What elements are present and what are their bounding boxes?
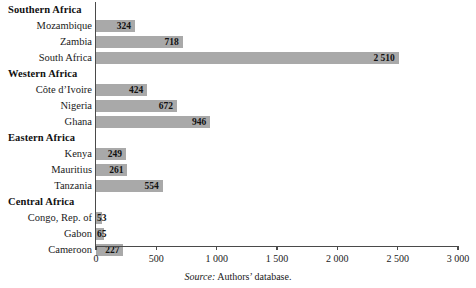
group-header-row: Eastern Africa bbox=[0, 130, 476, 146]
x-axis-tick-label: 500 bbox=[149, 252, 164, 266]
bar-row: Congo, Rep. of53 bbox=[0, 210, 476, 226]
bar-container: 65 bbox=[96, 228, 104, 240]
x-axis-tick-label: 2 500 bbox=[386, 252, 409, 266]
bar-value-label: 324 bbox=[92, 20, 135, 32]
bar-container: 261 bbox=[96, 164, 127, 176]
bar-value-label: 672 bbox=[92, 100, 177, 112]
category-label: Gabon bbox=[0, 226, 92, 242]
bar-row: Kenya249 bbox=[0, 146, 476, 162]
bar-container: 324 bbox=[96, 20, 135, 32]
category-label: Cameroon bbox=[0, 242, 92, 258]
bar-row: Côte d’Ivoire424 bbox=[0, 82, 476, 98]
bar-value-label: 718 bbox=[92, 36, 183, 48]
bar-chart-figure: Southern AfricaMozambique324Zambia718Sou… bbox=[0, 0, 476, 288]
category-label: South Africa bbox=[0, 50, 92, 66]
bar-value-label: 53 bbox=[96, 212, 107, 224]
bar-container: 672 bbox=[96, 100, 177, 112]
source-note: Source: Authors’ database. bbox=[0, 271, 476, 282]
x-axis-tick-label: 1 500 bbox=[266, 252, 289, 266]
bar-value-label: 424 bbox=[92, 84, 147, 96]
x-axis-tick-label: 0 bbox=[94, 252, 99, 266]
bar-value-label: 2 510 bbox=[92, 52, 399, 64]
bar-value-label: 249 bbox=[92, 148, 126, 160]
bar-row: Mozambique324 bbox=[0, 18, 476, 34]
bar-value-label: 261 bbox=[92, 164, 127, 176]
x-axis-tick-label: 2 000 bbox=[326, 252, 349, 266]
x-axis-tick-label: 3 000 bbox=[447, 252, 470, 266]
bar-container: 2 510 bbox=[96, 52, 399, 64]
x-axis-tick bbox=[276, 246, 277, 250]
bar-row: South Africa2 510 bbox=[0, 50, 476, 66]
group-header-row: Southern Africa bbox=[0, 2, 476, 18]
bar-value-label: 554 bbox=[92, 180, 163, 192]
x-axis-tick bbox=[156, 246, 157, 250]
category-label: Mauritius bbox=[0, 162, 92, 178]
bar-container: 554 bbox=[96, 180, 163, 192]
group-label: Western Africa bbox=[8, 66, 77, 82]
category-label: Tanzania bbox=[0, 178, 92, 194]
bar-value-label: 946 bbox=[92, 116, 210, 128]
category-label: Kenya bbox=[0, 146, 92, 162]
category-label: Congo, Rep. of bbox=[0, 210, 92, 226]
chart-plot-area: Southern AfricaMozambique324Zambia718Sou… bbox=[0, 0, 476, 246]
bar-row: Gabon65 bbox=[0, 226, 476, 242]
bar-container: 946 bbox=[96, 116, 210, 128]
bar-container: 718 bbox=[96, 36, 183, 48]
source-prefix: Source: bbox=[185, 271, 216, 282]
source-text: Authors’ database. bbox=[217, 271, 291, 282]
bar-row: Zambia718 bbox=[0, 34, 476, 50]
bar-row: Tanzania554 bbox=[0, 178, 476, 194]
x-axis-tick-label: 1 000 bbox=[205, 252, 228, 266]
group-label: Eastern Africa bbox=[8, 130, 75, 146]
x-axis-tick bbox=[397, 246, 398, 250]
bar-container: 249 bbox=[96, 148, 126, 160]
bar-row: Nigeria672 bbox=[0, 98, 476, 114]
group-label: Southern Africa bbox=[8, 2, 82, 18]
category-label: Nigeria bbox=[0, 98, 92, 114]
bar-value-label: 65 bbox=[96, 228, 107, 240]
y-axis-line bbox=[95, 2, 96, 246]
x-axis-tick bbox=[337, 246, 338, 250]
x-axis-tick bbox=[457, 246, 458, 250]
group-label: Central Africa bbox=[8, 194, 74, 210]
category-label: Côte d’Ivoire bbox=[0, 82, 92, 98]
category-label: Zambia bbox=[0, 34, 92, 50]
group-header-row: Western Africa bbox=[0, 66, 476, 82]
bar-row: Mauritius261 bbox=[0, 162, 476, 178]
category-label: Mozambique bbox=[0, 18, 92, 34]
bar-row: Ghana946 bbox=[0, 114, 476, 130]
x-axis-tick bbox=[95, 246, 96, 250]
bar-container: 53 bbox=[96, 212, 102, 224]
x-axis-tick bbox=[216, 246, 217, 250]
bar-container: 424 bbox=[96, 84, 147, 96]
category-label: Ghana bbox=[0, 114, 92, 130]
group-header-row: Central Africa bbox=[0, 194, 476, 210]
